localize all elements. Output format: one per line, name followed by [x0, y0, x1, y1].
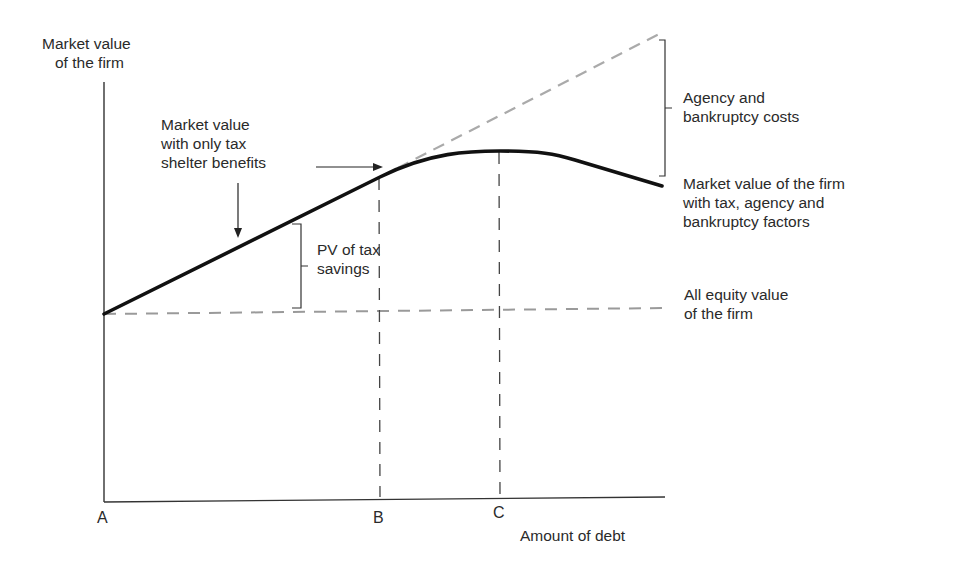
all-equity-line-2: of the firm	[684, 304, 788, 323]
combined-value-label: Market value of the firm with tax, agenc…	[683, 174, 845, 231]
arrow-right-icon	[373, 163, 383, 171]
all-equity-line	[104, 308, 665, 314]
pv-tax-line-2: savings	[317, 259, 380, 278]
combined-line-2: with tax, agency and	[683, 193, 845, 212]
all-equity-line-1: All equity value	[684, 285, 788, 304]
market-value-curve	[104, 151, 662, 314]
tax-only-label: Market value with only tax shelter benef…	[161, 115, 266, 172]
y-axis-label-line-1: Market value	[42, 34, 131, 53]
pv-tax-savings-label: PV of tax savings	[317, 240, 380, 278]
x-axis	[104, 497, 665, 502]
arrow-down-icon	[234, 228, 242, 238]
b-dashed-line	[379, 178, 380, 497]
tax-shelter-only-line	[380, 32, 663, 177]
y-axis-label: Market value of the firm	[42, 34, 131, 72]
all-equity-label: All equity value of the firm	[684, 285, 788, 323]
capital-structure-diagram	[0, 0, 953, 580]
tax-only-line-3: shelter benefits	[161, 153, 266, 172]
pv-tax-line-1: PV of tax	[317, 240, 380, 259]
tax-only-line-1: Market value	[161, 115, 266, 134]
combined-line-3: bankruptcy factors	[683, 212, 845, 231]
y-axis-label-line-2: of the firm	[42, 53, 131, 72]
x-axis-label: Amount of debt	[520, 526, 625, 545]
agency-line-2: bankruptcy costs	[683, 107, 799, 126]
point-b-label: B	[373, 508, 384, 527]
agency-line-1: Agency and	[683, 88, 799, 107]
tax-only-line-2: with only tax	[161, 134, 266, 153]
agency-bracket	[659, 40, 672, 176]
point-a-label: A	[97, 508, 108, 527]
pv-bracket	[292, 224, 308, 308]
point-c-label: C	[493, 503, 505, 522]
c-dashed-line	[499, 152, 500, 496]
combined-line-1: Market value of the firm	[683, 174, 845, 193]
agency-costs-label: Agency and bankruptcy costs	[683, 88, 799, 126]
